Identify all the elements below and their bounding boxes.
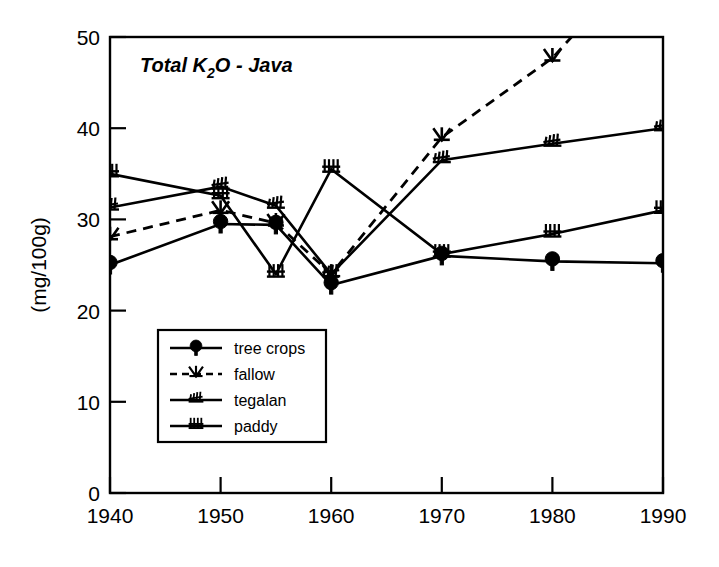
x-tick-label-1970: 1970 — [418, 504, 465, 527]
y-tick-label-10: 10 — [77, 391, 100, 414]
y-tick-label-20: 20 — [77, 300, 100, 323]
data-point-tree-crops-1990 — [656, 254, 670, 273]
series-line-tree-crops — [110, 224, 663, 285]
data-point-fallow-1940 — [102, 227, 119, 241]
y-tick-label-30: 30 — [77, 208, 100, 231]
legend-label-paddy: paddy — [234, 418, 278, 435]
chart-title-subscript: 2 — [206, 65, 215, 81]
series-tegalan — [101, 118, 672, 276]
x-tick-label-1980: 1980 — [529, 504, 576, 527]
x-tick-label-1940: 1940 — [87, 504, 134, 527]
chart-title-main: Total K — [140, 54, 209, 76]
data-point-tree-crops-1980 — [545, 252, 559, 271]
y-axis-tick-labels: 0 10 20 30 40 50 — [77, 26, 100, 505]
legend-label-tree-crops: tree crops — [234, 340, 305, 357]
data-point-tree-crops-1950 — [213, 214, 227, 233]
data-point-tree-crops-1940 — [103, 255, 117, 274]
legend-label-tegalan: tegalan — [234, 392, 287, 409]
x-tick-label-1950: 1950 — [197, 504, 244, 527]
y-tick-label-0: 0 — [88, 482, 100, 505]
x-tick-label-1960: 1960 — [308, 504, 355, 527]
chart-title: Total K2O - Java — [140, 54, 293, 81]
series-line-paddy — [110, 169, 663, 274]
series-line-tegalan — [110, 128, 663, 274]
x-axis-tick-labels: 1940 1950 1960 1970 1980 1990 — [87, 504, 687, 527]
y-axis-label: (mg/100g) — [27, 217, 50, 313]
y-tick-label-50: 50 — [77, 26, 100, 49]
chart-canvas: 0 10 20 30 40 50 1940 1950 1960 1970 198… — [0, 0, 719, 567]
chart-figure: 0 10 20 30 40 50 1940 1950 1960 1970 198… — [0, 0, 719, 567]
legend: tree crops fallow tegalan paddy — [158, 330, 326, 442]
chart-title-tail: O - Java — [215, 54, 293, 76]
x-tick-label-1990: 1990 — [640, 504, 687, 527]
legend-label-fallow: fallow — [234, 366, 275, 383]
series-layer — [101, 0, 672, 294]
y-tick-label-40: 40 — [77, 117, 100, 140]
data-point-tegalan-1955 — [267, 196, 285, 208]
x-axis-ticks — [110, 477, 663, 493]
